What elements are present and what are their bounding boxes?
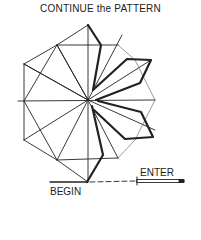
dashed-leader (90, 181, 136, 182)
enter-label: ENTER (140, 167, 174, 178)
enter-pencil-icon (137, 177, 184, 185)
radial-spokes (18, 25, 155, 182)
begin-label: BEGIN (50, 186, 81, 197)
